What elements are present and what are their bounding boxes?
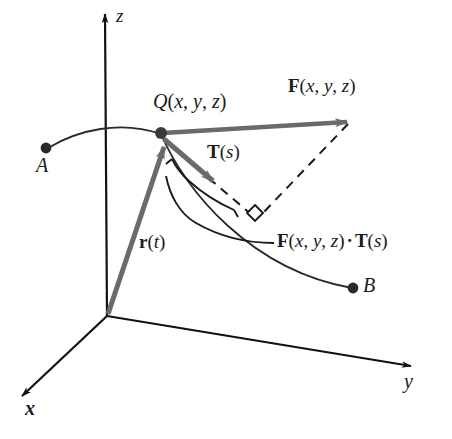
point-b-dot bbox=[348, 283, 359, 294]
point-q-comma-1: , bbox=[183, 90, 193, 112]
axis-x-label: x bbox=[25, 398, 35, 418]
vector-t-name: T bbox=[207, 141, 220, 162]
dot-product-field-comma-2: , bbox=[321, 230, 331, 251]
dot-product-field-comma-1: , bbox=[303, 230, 313, 251]
curve-segment-a-to-q bbox=[48, 127, 161, 148]
point-a-label: A bbox=[36, 155, 48, 175]
vector-r-close-paren: ) bbox=[159, 231, 165, 252]
point-q-label: Q(x, y, z) bbox=[153, 91, 226, 111]
point-b-label: B bbox=[363, 275, 375, 295]
point-q-close-paren: ) bbox=[220, 90, 227, 112]
axis-y-label: y bbox=[404, 371, 413, 391]
point-q-arg-z: z bbox=[212, 90, 220, 112]
point-q-comma-2: , bbox=[202, 90, 212, 112]
vector-f-close-paren: ) bbox=[349, 75, 355, 96]
dot-product-tangent-close: ) bbox=[381, 230, 387, 251]
vector-f-comma-2: , bbox=[332, 75, 342, 96]
vector-f-comma-1: , bbox=[314, 75, 324, 96]
space-curve bbox=[48, 127, 352, 288]
dot-product-label: F(x, y, z)·T(s) bbox=[277, 231, 388, 250]
point-q-name: Q bbox=[153, 90, 167, 112]
point-q-dot bbox=[155, 127, 167, 139]
scalar-projection-brace bbox=[166, 159, 238, 217]
right-angle-marker-icon bbox=[247, 205, 263, 221]
point-q-arg-y: y bbox=[193, 90, 202, 112]
dot-product-field-name: F bbox=[277, 230, 289, 251]
axis-y-line bbox=[107, 316, 411, 366]
diagram-canvas bbox=[0, 0, 452, 439]
axis-z-label: z bbox=[116, 6, 123, 25]
dot-product-operator-icon: · bbox=[345, 230, 355, 251]
point-a-dot bbox=[41, 143, 52, 154]
vector-f-field bbox=[163, 122, 347, 133]
coordinate-axes bbox=[22, 14, 411, 396]
dashed-line-f-tip-to-foot bbox=[262, 124, 348, 214]
axis-x-line bbox=[22, 316, 107, 396]
dot-product-field-close: ) bbox=[338, 230, 344, 251]
vector-r-label: r(t) bbox=[139, 232, 165, 251]
projection-construction-dashed bbox=[171, 124, 348, 221]
point-q-arg-x: x bbox=[174, 90, 183, 112]
vector-f-name: F bbox=[288, 75, 300, 96]
brace-tick-end bbox=[234, 210, 238, 217]
vector-field-line-integral-diagram: z y x A B Q(x, y, z) F(x, y, z) T(s) r(t… bbox=[0, 0, 452, 439]
brace-tick-start bbox=[166, 159, 172, 164]
dot-product-tangent-name: T bbox=[355, 230, 368, 251]
axis-z-line bbox=[105, 14, 107, 316]
vector-f-label: F(x, y, z) bbox=[288, 76, 356, 95]
brace-curve bbox=[172, 159, 234, 210]
vector-t-label: T(s) bbox=[207, 142, 240, 161]
vector-t-close-paren: ) bbox=[233, 141, 239, 162]
